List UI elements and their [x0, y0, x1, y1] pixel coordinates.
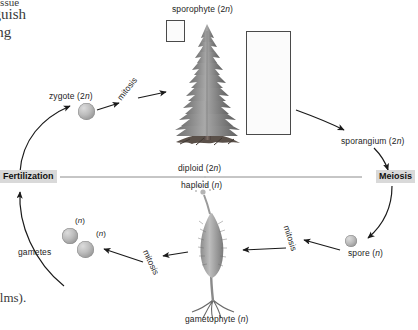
meiosis-phase-badge[interactable]: Meiosis [376, 170, 415, 183]
spore-label: spore (n) [348, 248, 383, 258]
gamete-1-ploidy-label: (n) [75, 216, 85, 225]
gametes-label: gametes [18, 247, 51, 257]
arrow-gametophyte-to-mitosis [163, 252, 188, 256]
arrow-fertilization-to-zygote [20, 106, 70, 172]
gametophyte-label: gametophyte (n) [185, 314, 248, 324]
sporangium-label-text: sporangium (2n) [341, 136, 404, 146]
haploid-label: haploid (n) [181, 180, 222, 190]
sporangium-label: sporangium (2n) [341, 136, 404, 146]
gametophyte-illustration [192, 176, 234, 320]
zygote-cell [78, 103, 95, 120]
arrow-gametes-to-fertilization [20, 192, 64, 286]
gametophyte-label-text: gametophyte (n) [185, 314, 248, 324]
sporophyte-illustration [175, 24, 240, 145]
spore-cell [345, 235, 357, 247]
arrow-mitosis-to-gametophyte [243, 248, 286, 250]
zygote-label: zygote (2n) [49, 91, 93, 101]
arrow-spore-to-mitosis [304, 240, 340, 250]
diagram-page: tissue nguish ing elms). [0, 0, 418, 330]
arrow-mitosis-to-gametes [104, 249, 143, 262]
gamete-cell-1 [62, 228, 78, 244]
arrow-mitosis-to-sporophyte [138, 92, 166, 98]
gamete-2-ploidy-label: (n) [96, 229, 106, 238]
sporophyte-label: sporophyte (2n) [172, 4, 233, 14]
gamete-cell-2 [77, 241, 94, 258]
spore-label-text: spore (n) [348, 248, 383, 258]
gametes-label-text: gametes [18, 247, 51, 257]
diploid-label: diploid (2n) [178, 163, 221, 173]
arrow-meiosis-to-spore [368, 186, 392, 238]
fertilization-phase-badge[interactable]: Fertilization [0, 170, 57, 183]
sporangium-detail-panel-frame [246, 31, 291, 135]
sporophyte-label-text: sporophyte (2n) [172, 4, 233, 14]
arrow-sporangium-to-meiosis [374, 148, 388, 170]
arrow-sporophyte-to-sporangium [296, 110, 344, 130]
arrow-zygote-to-mitosis [97, 103, 119, 110]
zygote-label-text: zygote (2n) [49, 91, 93, 101]
sporophyte-detail-marker-frame [166, 20, 185, 42]
